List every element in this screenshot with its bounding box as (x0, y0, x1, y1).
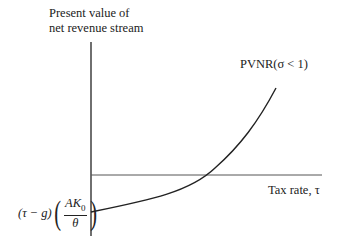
fraction-numerator: AK0 (64, 196, 86, 216)
numerator-subscript: 0 (81, 203, 86, 213)
right-paren: ) (90, 196, 97, 230)
pvnr-curve (91, 88, 276, 212)
numerator-text: AK (65, 196, 81, 210)
fraction-denominator: θ (72, 216, 78, 230)
intercept-label: (τ − g) ( AK0 θ ) (18, 196, 99, 230)
intercept-prefix: (τ − g) (18, 206, 52, 221)
curve-label: PVNR(σ < 1) (240, 57, 308, 72)
left-paren: ( (54, 196, 61, 230)
x-axis-label: Tax rate, τ (268, 183, 320, 198)
fraction: AK0 θ (64, 196, 86, 230)
